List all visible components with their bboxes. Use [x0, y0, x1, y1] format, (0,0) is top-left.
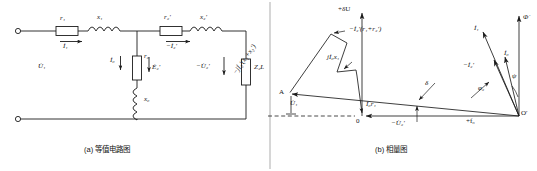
- label-vector-u2n: −U̇₂′: [391, 120, 405, 127]
- label-axis-vertical: +δU: [338, 6, 350, 13]
- label-z2l: Z₂L: [254, 64, 264, 71]
- inductor-x2p: [190, 27, 222, 31]
- label-drop-i0r1: İ₀r₁: [366, 101, 376, 108]
- label-e2p: Ė₂′: [152, 64, 160, 71]
- label-x0: x₀: [144, 96, 150, 103]
- inductor-x0: [133, 88, 137, 120]
- label-vector-flux: Φ̇: [523, 14, 528, 21]
- figure-canvas: [0, 0, 537, 171]
- drop-resistive-series-a: [331, 34, 347, 43]
- pointer-resistive-series: [334, 31, 345, 33]
- resistor-r1: [56, 27, 78, 36]
- label-current-i1: İ₁: [63, 43, 68, 50]
- label-u1-source: U̇₁: [38, 63, 46, 70]
- label-vector-i1: İ₁: [474, 25, 479, 32]
- label-r1: r₁: [60, 15, 65, 22]
- label-origin: 0: [356, 118, 360, 125]
- vector-u1: [292, 94, 519, 116]
- resistor-r2p: [160, 27, 182, 36]
- label-vector-u1: U̇₁: [290, 100, 298, 107]
- drop-corner: [356, 70, 357, 76]
- label-r2p: r₂′: [164, 14, 171, 21]
- resistor-r0: [133, 56, 142, 80]
- terminal-bottom: [15, 116, 20, 121]
- label-current-i0: İ₀: [110, 57, 115, 64]
- drop-magnetizing-resistance: [357, 76, 362, 113]
- label-angle-delta: δ: [425, 80, 428, 87]
- caption-phasor: (b) 相量图: [375, 143, 407, 154]
- label-vector-i0: İ₀: [504, 50, 509, 57]
- label-axis-horizontal: +f₀: [466, 118, 475, 125]
- label-x2p: x₂′: [200, 14, 207, 21]
- label-drop-ji0x1: jİ₀x₁: [327, 54, 339, 61]
- terminal-top: [15, 28, 20, 33]
- figure-root: r₁ x₁ r₂′ x₂′ İ₁ −İ₂′ İ₀ r₀ Ė₂′ x₀ −U̇₂′…: [0, 0, 537, 171]
- drop-reactive-series: [290, 34, 331, 93]
- label-current-i2n: −İ₂′: [166, 43, 177, 50]
- label-vertex-o: O′: [521, 110, 528, 117]
- label-u2n: −U̇₂′: [196, 63, 210, 70]
- inductor-x1: [88, 27, 120, 31]
- label-drop-resistive-series: −İ₂′(r₁+r₂′): [349, 26, 381, 33]
- label-angle-psi: ψ: [512, 73, 516, 80]
- drop-magnetizing-reactance: [337, 70, 356, 72]
- label-r0: r₀: [144, 53, 149, 60]
- label-vector-i2n: −İ₂′: [463, 62, 474, 69]
- vector-current-i2-negative: [494, 60, 519, 116]
- phasor-diagram: [268, 13, 519, 122]
- label-x1: x₁: [97, 14, 103, 21]
- pointer-ji0x1: [344, 62, 352, 69]
- label-angle-phi2: φ₂: [478, 85, 484, 92]
- caption-circuit: (a) 等值电路图: [84, 143, 130, 154]
- circuit-diagram: [15, 27, 250, 122]
- label-point-a: A: [279, 89, 284, 96]
